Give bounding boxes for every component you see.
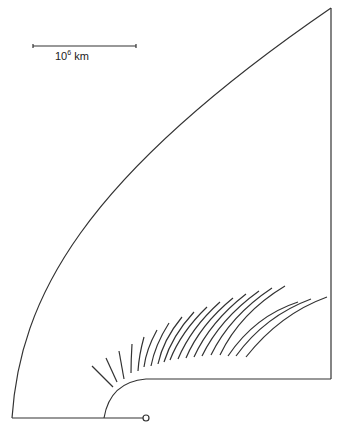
field-line (186, 298, 233, 358)
scale-label-unit: km (71, 50, 89, 62)
field-line (138, 337, 144, 371)
inner-boundary (104, 379, 331, 418)
scale-label: 106 km (55, 49, 89, 62)
diagram-canvas (0, 0, 348, 440)
field-line (92, 366, 113, 387)
field-lines (92, 286, 327, 387)
field-line (119, 351, 124, 379)
field-line (144, 330, 157, 367)
scale-label-base: 10 (55, 50, 67, 62)
origin-circle (143, 415, 149, 421)
field-line (131, 344, 132, 373)
field-line (106, 358, 117, 382)
field-line (151, 323, 169, 366)
